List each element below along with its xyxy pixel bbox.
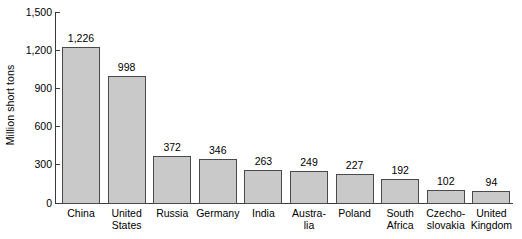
x-axis-category-label-line: India [237,208,289,220]
x-axis-category-label-line: slovakia [420,220,472,232]
bar-value-label: 192 [375,165,425,176]
x-axis-category-label: Germany [192,208,244,220]
bar-value-label: 94 [466,177,516,188]
x-axis-category-label-line: United [101,208,153,220]
x-axis-category-label-line: United [465,208,517,220]
x-axis-category-label-line: Czecho- [420,208,472,220]
x-axis-category-label: UnitedKingdom [465,208,517,231]
x-axis-category-label: Russia [146,208,198,220]
bar [472,191,510,204]
bar-value-label: 227 [330,160,380,171]
bar [336,174,374,204]
bar [62,47,100,204]
bar-value-label: 263 [238,156,288,167]
x-axis-category-label-line: Austra- [283,208,335,220]
plot-area: 1,22699837234626324922719210294 [0,0,522,203]
bar-value-label: 1,226 [56,33,106,44]
x-axis-category-label: China [55,208,107,220]
bar [290,171,328,204]
x-axis-category-label-line: Germany [192,208,244,220]
x-axis-category-label: India [237,208,289,220]
x-axis-category-label: Czecho-slovakia [420,208,472,231]
x-axis-category-label-line: China [55,208,107,220]
x-axis-category-label-line: Poland [329,208,381,220]
x-axis-category-label-line: Russia [146,208,198,220]
bar-value-label: 249 [284,157,334,168]
x-axis-category-label-line: Kingdom [465,220,517,232]
x-axis-category-label-line: States [101,220,153,232]
x-axis-category-label: UnitedStates [101,208,153,231]
x-axis-category-label-line: lia [283,220,335,232]
bar-value-label: 998 [102,62,152,73]
x-axis-category-label-line: Africa [374,220,426,232]
bar-chart: Million short tons 03006009001,2001,500 … [0,0,522,239]
bar-value-label: 372 [147,142,197,153]
bar [153,156,191,204]
x-axis-category-label: SouthAfrica [374,208,426,231]
bar-value-label: 102 [421,176,471,187]
bar-value-label: 346 [193,145,243,156]
bar [199,159,237,204]
x-axis-category-label-line: South [374,208,426,220]
bar [427,190,465,204]
x-axis-category-label: Poland [329,208,381,220]
bar [244,170,282,204]
bar [381,179,419,204]
bar [108,76,146,204]
x-axis-category-label: Austra-lia [283,208,335,231]
